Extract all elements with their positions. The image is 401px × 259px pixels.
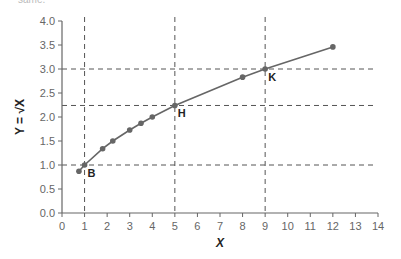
y-axis-title: Y = √X xyxy=(13,99,27,135)
x-tick-label: 3 xyxy=(127,220,133,232)
x-tick-label: 11 xyxy=(305,220,316,232)
y-tick-label: 3.5 xyxy=(40,39,55,51)
x-axis-title: X xyxy=(215,236,225,250)
x-tick-label: 7 xyxy=(217,220,223,232)
x-tick-label: 13 xyxy=(349,220,361,232)
x-tick-label: 12 xyxy=(327,220,339,232)
y-tick-label: 0.0 xyxy=(40,207,55,219)
y-tick-label: 1.5 xyxy=(40,135,55,147)
y-tick-label: 2.5 xyxy=(40,87,55,99)
data-point-marker xyxy=(127,127,133,133)
x-tick-label: 10 xyxy=(282,220,294,232)
data-point-marker xyxy=(262,66,268,72)
sqrt-line-chart: 0.00.51.01.52.02.53.03.54.00123456789101… xyxy=(0,0,401,259)
data-point-marker xyxy=(110,138,116,144)
data-point-marker xyxy=(100,146,106,152)
x-tick-label: 8 xyxy=(240,220,246,232)
y-tick-label: 3.0 xyxy=(40,63,55,75)
y-tick-label: 1.0 xyxy=(40,159,55,171)
x-tick-label: 14 xyxy=(372,220,384,232)
data-point-marker xyxy=(76,168,82,174)
x-tick-label: 2 xyxy=(104,220,110,232)
y-tick-label: 0.5 xyxy=(40,183,55,195)
data-point-marker xyxy=(82,162,88,168)
x-tick-label: 6 xyxy=(194,220,200,232)
point-label-h: H xyxy=(178,107,186,119)
x-tick-label: 9 xyxy=(262,220,268,232)
point-label-k: K xyxy=(268,71,276,83)
x-tick-label: 0 xyxy=(59,220,65,232)
data-point-marker xyxy=(172,103,178,109)
series-line xyxy=(79,47,333,171)
data-point-marker xyxy=(330,44,336,50)
x-tick-label: 4 xyxy=(149,220,155,232)
point-label-b: B xyxy=(88,167,96,179)
y-tick-label: 4.0 xyxy=(40,15,55,27)
data-series xyxy=(76,44,336,174)
y-tick-label: 2.0 xyxy=(40,111,55,123)
point-annotations: BHK xyxy=(88,71,277,179)
x-tick-label: 1 xyxy=(82,220,88,232)
y-axis-title-text: Y = √X xyxy=(13,99,27,135)
data-point-marker xyxy=(240,74,246,80)
data-point-marker xyxy=(149,114,155,120)
data-point-marker xyxy=(138,120,144,126)
reference-lines xyxy=(62,17,374,213)
x-tick-label: 5 xyxy=(172,220,178,232)
